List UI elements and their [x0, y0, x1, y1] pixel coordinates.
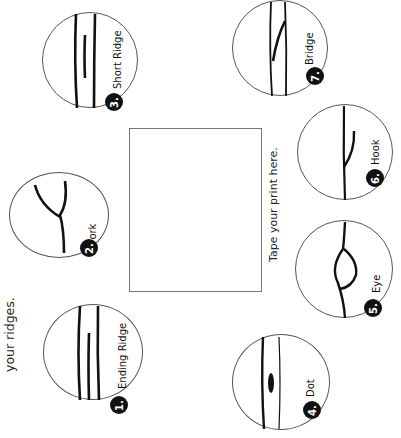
ridge-label: Hook	[371, 139, 381, 165]
ridge-card-eye: Eye 5.	[295, 220, 393, 318]
number-badge: 4.	[303, 401, 321, 419]
number-badge: 1.	[110, 396, 128, 414]
number-badge: 3.	[105, 93, 123, 111]
instruction-text: Tape your print here.	[268, 147, 279, 262]
ridge-card-bridge: Bridge 7.	[232, 0, 328, 96]
ridge-label: Ending Ridge	[118, 323, 128, 389]
ending-ridge-illustration	[44, 305, 144, 401]
number-badge: 6.	[366, 169, 384, 187]
number-badge: 7.	[306, 67, 324, 85]
ridge-label: Dot	[306, 379, 316, 397]
ridge-label: Eye	[372, 275, 382, 293]
number-badge: 2.	[80, 239, 98, 257]
short-ridge-illustration	[43, 13, 139, 109]
side-text: your ridges.	[4, 297, 17, 372]
ridge-label: Short Ridge	[113, 30, 123, 89]
ridge-card-hook: Hook 6.	[297, 104, 393, 200]
ridge-card-fork: Fork 2.	[9, 172, 109, 258]
ridge-card-dot: Dot 4.	[232, 334, 330, 430]
number-badge: 5.	[364, 299, 382, 317]
print-tape-box	[129, 128, 262, 292]
ridge-card-short-ridge: Short Ridge 3.	[42, 12, 138, 108]
ridge-label: Bridge	[305, 32, 315, 65]
ridge-card-ending-ridge: Ending Ridge 1.	[43, 304, 143, 400]
